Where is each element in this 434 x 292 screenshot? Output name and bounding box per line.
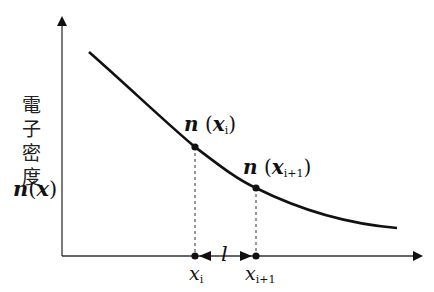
interval-symbol: l [221,242,228,266]
axis-label-xi: xi [189,262,203,286]
arg-symbol: x [272,155,284,179]
curve-point-xi1 [252,184,259,191]
y-label-char: 電 [16,93,46,117]
subscript: i [200,273,204,286]
arg-symbol: x [36,176,49,201]
y-axis-label: 電 子 密 度 [16,93,46,189]
interval-arrow-right [240,251,252,261]
interval-arrow-left [199,251,211,261]
point-label-xi1: n (xi+1) [243,155,311,180]
fn-symbol: n [184,112,199,136]
fn-symbol: n [243,155,258,179]
subscript: i+1 [256,273,276,286]
point-label-xi: n (xi) [184,112,236,137]
axis-point-xi [191,252,198,259]
axis-symbol: x [245,262,256,284]
arg-symbol: x [213,112,225,136]
density-curve [89,52,397,228]
y-axis-symbol: n(x) [13,176,57,201]
interval-label: l [221,242,228,266]
axis-label-xi1: xi+1 [245,262,275,286]
y-label-char: 密 [16,141,46,165]
curve-point-xi [191,143,198,150]
axis-symbol: x [189,262,200,284]
y-label-char: 子 [16,117,46,141]
subscript: i [225,124,229,137]
axis-point-xi1 [252,252,259,259]
subscript: i+1 [284,167,304,180]
diagram-canvas [0,0,434,292]
fn-symbol: n [13,176,28,201]
